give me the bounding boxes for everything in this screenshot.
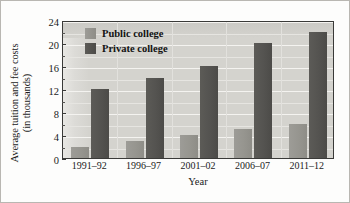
y-axis-title-line2: (in thousands) — [20, 43, 32, 162]
y-axis-tick-mark-minor — [62, 56, 65, 57]
bar-private — [91, 89, 109, 158]
y-axis-tick-mark — [62, 44, 66, 45]
y-axis-title-line1: Average tuition and fee costs — [9, 43, 20, 162]
y-axis-tick-label: 0 — [54, 156, 59, 167]
legend-swatch-public — [85, 28, 96, 39]
y-axis-tick-mark-minor — [62, 33, 65, 34]
bar-public — [126, 141, 144, 158]
y-axis-tick-label: 24 — [49, 18, 60, 29]
bar-public — [234, 129, 252, 158]
bar-private — [146, 78, 164, 159]
x-axis-tick-label: 2011–12 — [289, 161, 324, 171]
chart-figure: Average tuition and fee costs (in thousa… — [0, 0, 350, 203]
bar-private — [309, 32, 327, 159]
x-axis-tick-label: 2006–07 — [235, 161, 270, 171]
x-axis-tick-label: 1996–97 — [126, 161, 161, 171]
y-axis-tick-label: 8 — [54, 110, 59, 121]
y-axis-tick-marks — [62, 21, 70, 159]
x-axis-tick-label: 1991–92 — [72, 161, 107, 171]
y-axis-tick-mark-minor — [62, 102, 65, 103]
x-axis-title: Year — [62, 176, 334, 187]
chart-legend: Public collegePrivate college — [85, 27, 205, 57]
legend-label: Public college — [102, 28, 164, 39]
y-axis-tick-mark-minor — [62, 79, 65, 80]
y-axis-tick-label: 16 — [49, 64, 60, 75]
bar-public — [289, 124, 307, 159]
bar-private — [254, 43, 272, 158]
y-axis-tick-mark — [62, 90, 66, 91]
legend-item: Public college — [85, 27, 205, 40]
y-axis-tick-mark — [62, 113, 66, 114]
y-axis-title: Average tuition and fee costs (in thousa… — [1, 1, 39, 203]
bar-private — [200, 66, 218, 158]
y-axis-tick-label: 20 — [49, 41, 60, 52]
legend-item: Private college — [85, 42, 205, 55]
y-axis-tick-labels: 04812162024 — [39, 22, 61, 158]
x-axis-tick-label: 2001–02 — [181, 161, 216, 171]
y-axis-tick-mark-minor — [62, 148, 65, 149]
y-axis-tick-mark-minor — [62, 125, 65, 126]
y-axis-tick-mark — [62, 159, 66, 160]
x-axis-tick-labels: 1991–921996–972001–022006–072011–12 — [62, 161, 334, 175]
y-axis-tick-mark — [62, 67, 66, 68]
legend-swatch-private — [85, 43, 96, 54]
bar-public — [180, 135, 198, 158]
y-axis-tick-mark — [62, 136, 66, 137]
bar-public — [71, 147, 89, 159]
legend-label: Private college — [102, 43, 168, 54]
y-axis-tick-mark — [62, 21, 66, 22]
y-axis-tick-label: 4 — [54, 133, 59, 144]
y-axis-tick-label: 12 — [49, 87, 60, 98]
